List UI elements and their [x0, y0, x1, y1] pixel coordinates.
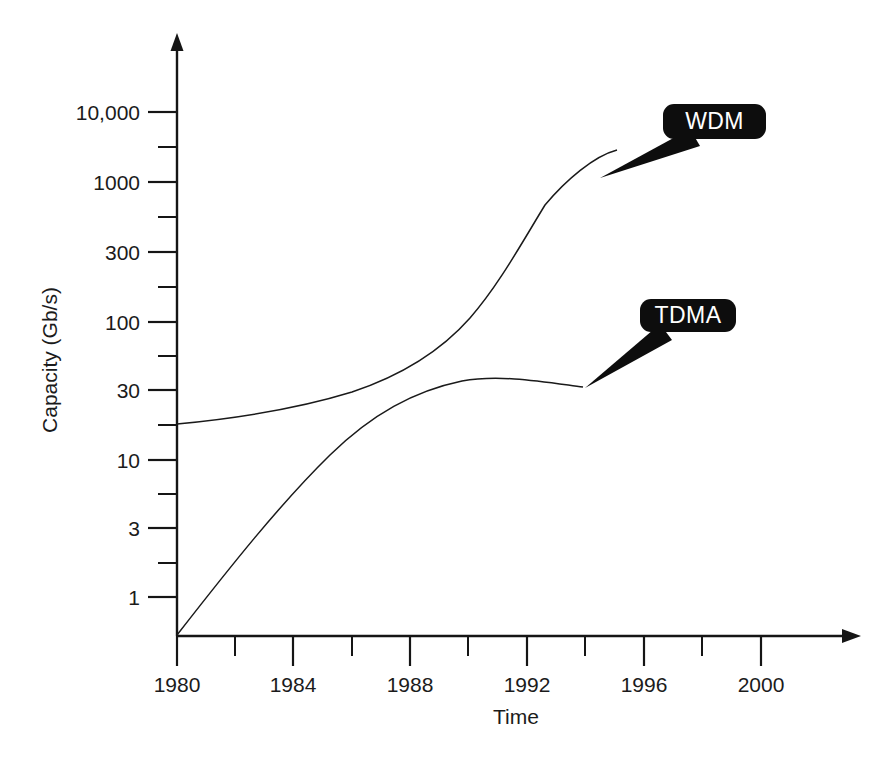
y-tick-label-300: 300: [105, 241, 140, 264]
y-axis-title: Capacity (Gb/s): [38, 287, 61, 433]
x-tick-label-1996: 1996: [621, 673, 668, 696]
y-axis-ticks: [148, 112, 177, 597]
callout-tdma-label: TDMA: [655, 302, 722, 328]
callout-tdma-pointer: [585, 324, 672, 388]
x-axis: [177, 629, 861, 643]
x-axis-tick-labels: 1980 1984 1988 1992 1996 2000: [154, 673, 785, 696]
x-axis-title: Time: [493, 705, 539, 728]
x-axis-arrowhead: [842, 629, 861, 643]
x-tick-label-1984: 1984: [270, 673, 317, 696]
y-tick-label-30: 30: [117, 379, 140, 402]
x-tick-label-1992: 1992: [504, 673, 551, 696]
y-tick-label-10: 10: [117, 449, 140, 472]
capacity-vs-time-log-chart: 10,000 1000 300 100 30 10 3 1 1980 19: [0, 0, 895, 767]
y-axis: [171, 33, 184, 636]
x-tick-label-1980: 1980: [154, 673, 201, 696]
y-tick-label-1: 1: [128, 586, 140, 609]
x-axis-ticks: [177, 636, 761, 666]
callout-wdm-label: WDM: [685, 108, 744, 134]
y-axis-arrowhead: [171, 33, 184, 51]
y-tick-label-3: 3: [128, 517, 140, 540]
y-tick-label-10000: 10,000: [76, 101, 140, 124]
callout-tdma[interactable]: TDMA: [585, 299, 736, 388]
y-tick-label-100: 100: [105, 311, 140, 334]
chart-figure: 10,000 1000 300 100 30 10 3 1 1980 19: [0, 0, 895, 767]
y-axis-tick-labels: 10,000 1000 300 100 30 10 3 1: [76, 101, 140, 609]
callout-wdm[interactable]: WDM: [600, 104, 766, 178]
x-tick-label-1988: 1988: [387, 673, 434, 696]
x-tick-label-2000: 2000: [738, 673, 785, 696]
data-series-group: [177, 150, 617, 635]
y-tick-label-1000: 1000: [93, 171, 140, 194]
